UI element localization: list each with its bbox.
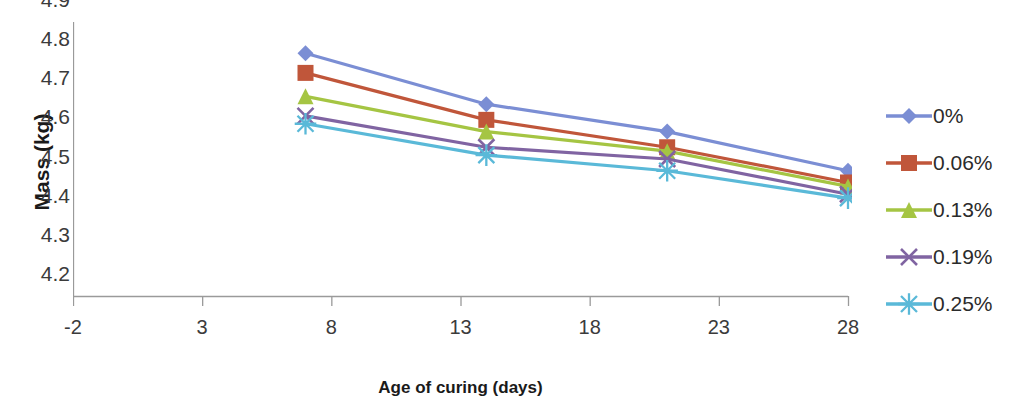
line-chart: Mass (kg) 4.24.34.44.54.64.74.84.9 -2381… <box>0 0 1022 411</box>
data-point-marker-diamond <box>298 45 314 61</box>
legend-marker-triangle-icon <box>886 199 932 221</box>
data-point-marker-diamond <box>659 124 675 140</box>
data-point-marker-star <box>476 144 498 166</box>
legend-item-0pct[interactable]: 0% <box>886 92 1022 139</box>
y-tick-label: 4.9 <box>18 0 70 10</box>
y-tick-label: 4.3 <box>18 224 70 245</box>
chart-legend: 0%0.06%0.13%0.19%0.25% <box>886 92 1022 327</box>
legend-item-0-13pct[interactable]: 0.13% <box>886 186 1022 233</box>
plot-area <box>73 22 848 296</box>
x-tick-label: -2 <box>43 316 103 339</box>
x-tick-label: 23 <box>689 316 749 339</box>
data-point-marker-diamond <box>901 108 917 124</box>
legend-item-0-19pct[interactable]: 0.19% <box>886 233 1022 280</box>
plot-svg <box>73 22 852 318</box>
legend-label: 0.19% <box>933 245 993 269</box>
legend-item-0-25pct[interactable]: 0.25% <box>886 280 1022 327</box>
legend-item-0-06pct[interactable]: 0.06% <box>886 139 1022 186</box>
data-point-marker-star <box>656 160 678 182</box>
y-tick-label: 4.5 <box>18 146 70 167</box>
legend-marker-star-icon <box>886 293 932 315</box>
legend-marker-square-icon <box>886 152 932 174</box>
x-tick-label: 3 <box>172 316 232 339</box>
series-polyline <box>306 73 849 183</box>
y-tick-label: 4.4 <box>18 185 70 206</box>
series-polyline <box>306 116 849 194</box>
y-tick-label: 4.6 <box>18 106 70 127</box>
x-tick-label: 13 <box>431 316 491 339</box>
data-point-marker-star <box>898 293 920 315</box>
legend-label: 0.25% <box>933 292 993 316</box>
x-tick-label: 8 <box>301 316 361 339</box>
data-point-marker-square <box>298 65 314 81</box>
y-tick-label: 4.8 <box>18 28 70 49</box>
legend-label: 0.13% <box>933 198 993 222</box>
y-tick-label: 4.2 <box>18 263 70 284</box>
x-axis-title: Age of curing (days) <box>73 378 848 398</box>
legend-marker-x-icon <box>886 246 932 268</box>
data-point-marker-star <box>295 113 317 135</box>
x-tick-label: 18 <box>560 316 620 339</box>
data-point-marker-square <box>901 155 917 171</box>
x-tick-label: 28 <box>818 316 878 339</box>
y-tick-label: 4.7 <box>18 67 70 88</box>
series-polyline <box>306 96 849 186</box>
y-axis-tick-labels: 4.24.34.44.54.64.74.84.9 <box>10 0 70 311</box>
legend-label: 0.06% <box>933 151 993 175</box>
data-point-marker-diamond <box>478 96 494 112</box>
legend-label: 0% <box>933 104 963 128</box>
legend-marker-diamond-icon <box>886 105 932 127</box>
